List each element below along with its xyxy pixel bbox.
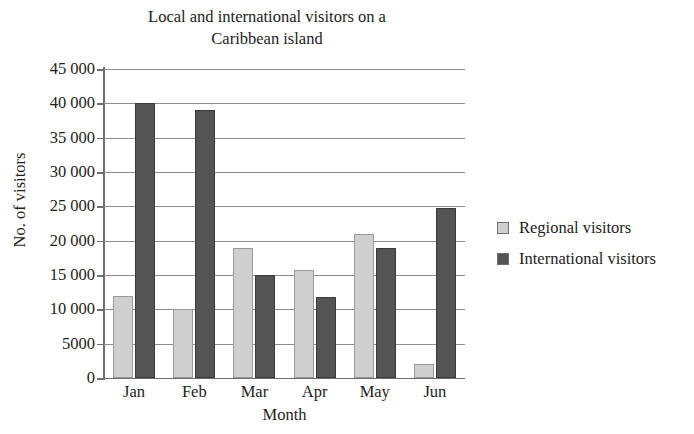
gridline [104,275,465,276]
bar-mar-regional [233,248,253,378]
y-axis-tick [97,275,104,277]
gridline [104,138,465,139]
legend-item-regional: Regional visitors [497,212,692,243]
gridline [104,309,465,310]
bar-may-regional [354,234,374,378]
y-axis-tick [97,103,104,105]
gridline [104,344,465,345]
y-axis-tick [97,378,104,380]
legend-swatch-icon [497,253,509,265]
x-axis-title: Month [104,405,465,425]
y-axis-tick-label: 45 000 [3,61,95,78]
gridline [104,172,465,173]
bar-jan-international [135,103,155,378]
y-axis-tick [97,241,104,243]
y-axis-tick-label: 0 [3,370,95,387]
y-axis-tick [97,172,104,174]
y-axis-tick [97,344,104,346]
bar-jun-regional [414,364,434,378]
legend-item-international: International visitors [497,243,692,274]
chart-legend: Regional visitorsInternational visitors [497,212,692,274]
gridline [104,69,465,70]
bar-jan-regional [113,296,133,378]
bar-may-international [376,248,396,378]
y-axis-title: No. of visitors [10,120,30,280]
y-axis-tick [97,309,104,311]
bar-mar-international [255,275,275,378]
bar-feb-international [195,110,215,378]
x-axis-tick-label: Jun [395,382,475,402]
y-axis-tick [97,69,104,71]
y-axis-tick [97,206,104,208]
y-axis-tick [97,138,104,140]
legend-label: Regional visitors [519,219,631,237]
bar-feb-regional [173,309,193,378]
chart-title: Local and international visitors on a Ca… [97,6,437,50]
gridline [104,103,465,104]
legend-label: International visitors [519,250,656,268]
gridline [104,241,465,242]
y-axis-tick-label: 40 000 [3,95,95,112]
y-axis-tick-label: 10 000 [3,301,95,318]
y-axis-tick-label: 5000 [3,336,95,353]
plot-area [104,69,465,378]
legend-swatch-icon [497,222,509,234]
bar-apr-regional [294,270,314,378]
bar-chart: Local and international visitors on a Ca… [0,0,694,434]
bar-apr-international [316,297,336,378]
bar-jun-international [436,208,456,378]
gridline [104,206,465,207]
